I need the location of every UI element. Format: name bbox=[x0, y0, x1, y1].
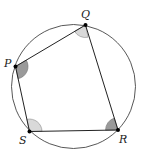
vertex-s-dot bbox=[28, 130, 32, 134]
vertex-label-q: Q bbox=[81, 8, 90, 21]
vertex-label-r: R bbox=[118, 133, 127, 146]
vertex-p-dot bbox=[14, 65, 18, 69]
cyclic-quadrilateral-diagram: Q P S R bbox=[0, 0, 142, 160]
vertex-label-p: P bbox=[3, 57, 12, 70]
vertex-q-dot bbox=[84, 23, 88, 27]
vertex-label-s: S bbox=[19, 134, 27, 147]
vertex-r-dot bbox=[116, 128, 120, 132]
